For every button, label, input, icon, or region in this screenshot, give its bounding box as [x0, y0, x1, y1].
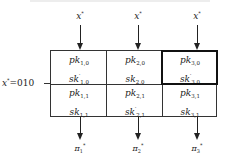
- key-cell-2-0: pk2,0 sk2,0: [107, 54, 163, 89]
- arrow-down-icon: [194, 133, 200, 140]
- output-arrow-2: [138, 117, 139, 134]
- arrow-down-icon: [135, 133, 141, 140]
- cropped-caption-remnant: [30, 0, 210, 2]
- key-table: pk1,0 sk′1,0 pk2,0 sk2,0 pk3,0 sk′3,0 pk…: [50, 50, 217, 117]
- key-cell-3-1: pk3,1 sk3,1: [163, 87, 217, 122]
- input-label-1: x*: [70, 10, 90, 21]
- output-arrow-3: [197, 117, 198, 134]
- key-cell-1-0: pk1,0 sk′1,0: [51, 54, 107, 89]
- arrow-down-icon: [77, 43, 83, 50]
- key-cell-2-1: pk2,1 sk′2,1: [107, 87, 163, 122]
- output-label-2: π2*: [128, 142, 148, 154]
- row-label-value: =010: [10, 78, 35, 88]
- arrow-down-icon: [77, 133, 83, 140]
- input-label-2: x*: [128, 10, 148, 21]
- output-arrow-1: [80, 117, 81, 134]
- arrow-down-icon: [135, 43, 141, 50]
- input-mark: *: [81, 10, 84, 16]
- input-mark: *: [198, 10, 201, 16]
- output-label-1: π1*: [70, 142, 90, 154]
- arrow-down-icon: [194, 43, 200, 50]
- output-label-3: π3*: [187, 142, 207, 154]
- input-arrow-2: [138, 25, 139, 44]
- row-label: x*=010: [2, 77, 34, 88]
- highlighted-cell-border: [161, 50, 218, 85]
- input-label-3: x*: [187, 10, 207, 21]
- input-arrow-1: [80, 25, 81, 44]
- input-arrow-3: [197, 25, 198, 44]
- input-mark: *: [139, 10, 142, 16]
- key-cell-1-1: pk1,1 sk1,1: [51, 87, 107, 122]
